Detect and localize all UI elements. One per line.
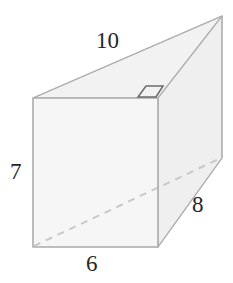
dimension-label-right: 8 xyxy=(192,193,204,216)
geometry-figure: 10 7 8 6 xyxy=(0,0,233,283)
front-face xyxy=(33,98,158,247)
dimension-label-left: 7 xyxy=(10,160,22,183)
dimension-label-bottom: 6 xyxy=(86,252,98,275)
dimension-label-top: 10 xyxy=(96,29,119,52)
